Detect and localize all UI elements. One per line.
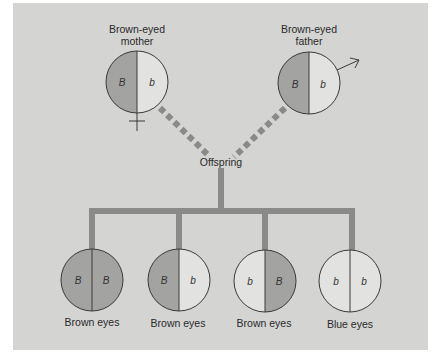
male-symbol-icon xyxy=(337,58,359,70)
mother-node: Brown-eyed mother B b xyxy=(106,23,168,131)
offspring-1-phenotype: Brown eyes xyxy=(65,316,120,328)
offspring-label: Offspring xyxy=(200,156,243,168)
offspring-3-phenotype: Brown eyes xyxy=(237,317,292,329)
mother-allele-2: b xyxy=(149,77,155,88)
offspring-node-1: B B Brown eyes xyxy=(61,249,123,328)
offspring-tree xyxy=(92,168,355,250)
father-allele-2: b xyxy=(320,79,326,90)
offspring-node-3: b B Brown eyes xyxy=(234,250,296,329)
offspring-1-allele-1: B xyxy=(75,275,82,286)
offspring-3-allele-2: B xyxy=(276,276,283,287)
father-node: Brown-eyed father B b xyxy=(278,23,359,114)
offspring-4-phenotype: Blue eyes xyxy=(327,318,373,330)
father-connector xyxy=(234,108,285,157)
offspring-node-4: b b Blue eyes xyxy=(319,250,381,330)
offspring-4-allele-1: b xyxy=(333,276,339,287)
mother-connector xyxy=(160,108,210,157)
offspring-1-allele-2: B xyxy=(103,275,110,286)
father-label-line1: Brown-eyed xyxy=(281,23,337,35)
father-allele-1: B xyxy=(292,79,299,90)
offspring-4-allele-2: b xyxy=(361,276,367,287)
mother-label-line2: mother xyxy=(121,35,154,47)
father-label-line2: father xyxy=(296,35,323,47)
offspring-2-phenotype: Brown eyes xyxy=(151,317,206,329)
offspring-node-2: B b Brown eyes xyxy=(148,249,210,329)
offspring-2-allele-1: B xyxy=(161,275,168,286)
mother-label-line1: Brown-eyed xyxy=(109,23,165,35)
inheritance-diagram: Brown-eyed mother B b Brown-eyed father … xyxy=(0,0,436,357)
mother-allele-1: B xyxy=(119,77,126,88)
offspring-2-allele-2: b xyxy=(190,275,196,286)
offspring-3-allele-1: b xyxy=(247,276,253,287)
